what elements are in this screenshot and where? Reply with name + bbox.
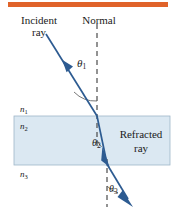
- angle-label-theta1: θ1: [77, 58, 86, 72]
- refractive-index-label-n3: n3: [20, 170, 28, 181]
- theta3-subscript: 3: [114, 187, 118, 196]
- incident-ray-label-line2: ray: [10, 27, 68, 38]
- normal-label: Normal: [73, 15, 125, 26]
- angle-label-theta3: θ3: [109, 183, 118, 197]
- n3-subscript: 3: [25, 173, 28, 180]
- refractive-index-label-n2: n2: [20, 122, 28, 133]
- n2-subscript: 2: [25, 125, 28, 132]
- incident-ray-line: [46, 34, 97, 116]
- incident-ray-arrowhead: [62, 60, 73, 72]
- refracted-ray-label-line2: ray: [110, 143, 172, 154]
- refractive-index-label-n1: n1: [20, 105, 28, 116]
- refracted-ray-label-line1: Refracted: [110, 129, 172, 140]
- angle-label-theta2: θ2: [92, 137, 101, 151]
- n1-subscript: 1: [25, 108, 28, 115]
- theta1-subscript: 1: [82, 62, 86, 71]
- theta2-subscript: 2: [97, 141, 101, 150]
- incident-ray-label-line1: Incident: [10, 15, 68, 26]
- optics-refraction-figure: Incident ray Normal Refracted ray θ1 θ2 …: [0, 0, 178, 209]
